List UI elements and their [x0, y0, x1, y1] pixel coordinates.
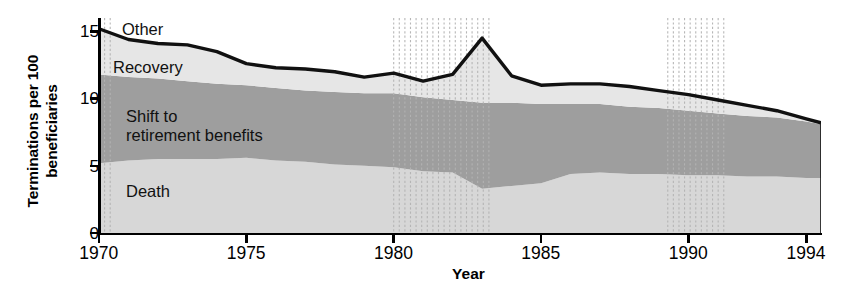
y-axis-title: Terminations per 100 beneficiaries — [23, 27, 61, 235]
y-tick-label: 0 — [50, 225, 99, 242]
x-tick-label: 1975 — [211, 244, 281, 263]
x-tick — [687, 234, 690, 243]
x-tick — [805, 234, 808, 243]
chart-figure: Terminations per 100 beneficiaries 05101… — [0, 0, 847, 292]
y-tick-label-text: 15 — [65, 23, 99, 40]
y-tick-label: 15 — [50, 23, 99, 40]
y-tick-label-text: 0 — [65, 225, 99, 242]
x-tick-label: 1990 — [653, 244, 723, 263]
series-label: Death — [126, 182, 170, 201]
y-tick-label: 5 — [50, 158, 99, 175]
x-tick — [245, 234, 248, 243]
x-axis-title: Year — [0, 265, 847, 283]
x-tick — [392, 234, 395, 243]
x-axis-line — [98, 233, 822, 236]
x-axis-title-text: Year — [452, 265, 485, 282]
series-label: Other — [122, 20, 163, 39]
y-tick-label-text: 5 — [65, 158, 99, 175]
y-tick-label: 10 — [50, 90, 99, 107]
series-label: Recovery — [113, 58, 183, 77]
x-tick — [98, 234, 101, 243]
y-tick-label-text: 10 — [65, 90, 99, 107]
x-tick-label: 1994 — [771, 244, 841, 263]
series-label: Shift to retirement benefits — [126, 107, 263, 145]
x-tick-label: 1985 — [506, 244, 576, 263]
x-tick-label: 1980 — [358, 244, 428, 263]
x-tick-label: 1970 — [64, 244, 134, 263]
x-tick — [540, 234, 543, 243]
y-axis-line — [98, 18, 101, 234]
